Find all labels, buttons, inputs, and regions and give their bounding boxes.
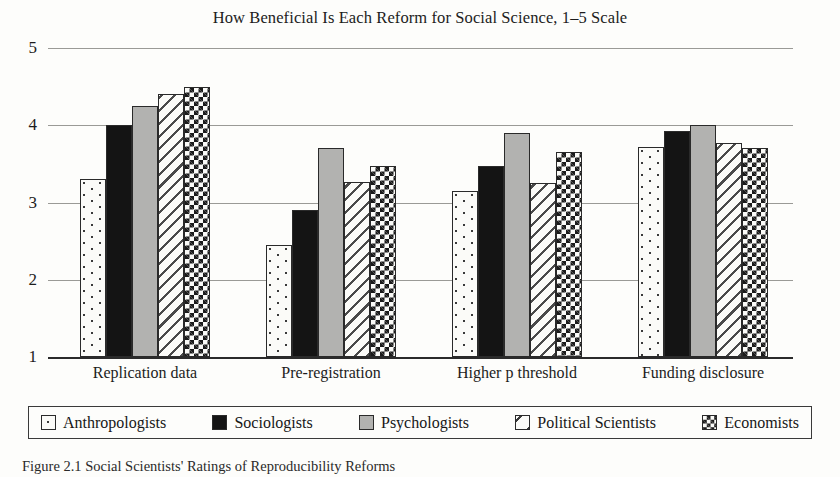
bar: [158, 94, 184, 357]
bar-group: [452, 48, 582, 357]
bar: [716, 143, 742, 357]
legend-label: Psychologists: [381, 414, 469, 432]
bar: [742, 148, 768, 357]
legend-item[interactable]: Political Scientists: [515, 414, 656, 432]
y-axis-tick-label: 4: [29, 116, 38, 133]
x-axis-category-label: Funding disclosure: [642, 364, 764, 382]
legend-swatch-icon: [702, 415, 717, 430]
bar: [266, 245, 292, 357]
figure-root: How Beneficial Is Each Reform for Social…: [0, 0, 840, 477]
bar-group: [80, 48, 210, 357]
legend-label: Political Scientists: [537, 414, 656, 432]
figure-caption: Figure 2.1 Social Scientists' Ratings of…: [22, 458, 822, 475]
bar: [638, 147, 664, 357]
bar: [556, 152, 582, 357]
bar: [664, 131, 690, 357]
legend-item[interactable]: Economists: [702, 414, 799, 432]
y-axis-tick-label: 3: [29, 194, 38, 211]
legend-item[interactable]: Anthropologists: [41, 414, 166, 432]
legend-label: Anthropologists: [63, 414, 166, 432]
bar: [370, 166, 396, 357]
legend-swatch-icon: [359, 415, 374, 430]
x-axis-category-label: Higher p threshold: [457, 364, 577, 382]
bar: [452, 191, 478, 357]
bar-group: [638, 48, 768, 357]
chart-legend: AnthropologistsSociologistsPsychologists…: [28, 406, 812, 439]
legend-swatch-icon: [515, 415, 530, 430]
bar-group: [266, 48, 396, 357]
legend-item[interactable]: Sociologists: [212, 414, 312, 432]
bar: [292, 210, 318, 357]
bar: [344, 182, 370, 357]
bar: [80, 179, 106, 357]
gridline-1: 1: [48, 357, 793, 359]
x-axis-category-label: Replication data: [93, 364, 197, 382]
bar: [106, 125, 132, 357]
chart-title: How Beneficial Is Each Reform for Social…: [0, 8, 840, 28]
bar: [504, 133, 530, 357]
bar: [690, 125, 716, 357]
legend-swatch-icon: [41, 415, 56, 430]
bar: [530, 183, 556, 357]
bar: [318, 148, 344, 357]
legend-swatch-icon: [212, 415, 227, 430]
legend-label: Economists: [724, 414, 799, 432]
legend-label: Sociologists: [234, 414, 312, 432]
plot-area: 12345: [48, 48, 793, 357]
legend-item[interactable]: Psychologists: [359, 414, 469, 432]
x-axis-category-label: Pre-registration: [281, 364, 381, 382]
y-axis-tick-label: 5: [29, 39, 38, 56]
bars-layer: [48, 48, 793, 357]
y-axis-tick-label: 2: [29, 271, 38, 288]
bar: [184, 87, 210, 357]
bar: [132, 106, 158, 357]
y-axis-tick-label: 1: [29, 348, 38, 365]
bar: [478, 166, 504, 357]
